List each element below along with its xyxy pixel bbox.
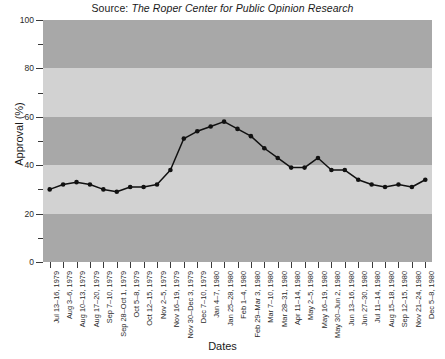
x-tick-label-13: Jan 25–28, 1980: [227, 271, 234, 326]
x-tick-9: [170, 262, 171, 268]
data-point: [155, 182, 160, 187]
x-tick-11: [197, 262, 198, 268]
data-point: [396, 182, 401, 187]
data-point: [74, 180, 79, 185]
series-line-group: [43, 20, 432, 262]
y-minor-tick-90: [38, 44, 43, 45]
x-tick-18: [291, 262, 292, 268]
x-tick-12: [211, 262, 212, 268]
series-line: [50, 122, 426, 192]
data-point: [249, 134, 254, 139]
x-tick-label-27: Nov 21–24, 1980: [415, 271, 422, 327]
data-point: [329, 168, 334, 173]
data-point: [302, 165, 307, 170]
x-tick-label-15: Feb 29–Mar 3, 1980: [254, 271, 261, 338]
data-point: [222, 119, 227, 124]
x-tick-6: [130, 262, 131, 268]
x-tick-1: [63, 262, 64, 268]
x-tick-label-14: Feb 1–4, 1980: [240, 271, 247, 319]
x-tick-19: [305, 262, 306, 268]
x-tick-label-25: Aug 15–18, 1980: [388, 271, 395, 327]
x-tick-label-21: May 30–Jun 2, 1980: [334, 271, 341, 338]
x-tick-label-5: Sep 28–Oct 1, 1979: [120, 271, 127, 337]
x-tick-13: [224, 262, 225, 268]
y-minor-tick-10: [38, 238, 43, 239]
x-tick-label-9: Nov 16–19, 1979: [173, 271, 180, 327]
x-tick-3: [90, 262, 91, 268]
x-tick-26: [398, 262, 399, 268]
chart-title: Source: The Roper Center for Public Opin…: [0, 2, 445, 14]
x-tick-23: [358, 262, 359, 268]
data-point: [369, 182, 374, 187]
y-tick-60: [36, 117, 43, 118]
y-tick-label-80: 80: [25, 63, 34, 73]
data-point: [275, 156, 280, 161]
data-point: [61, 182, 66, 187]
data-point: [410, 185, 415, 190]
data-point: [88, 182, 93, 187]
x-tick-label-18: Apr 11–14, 1980: [294, 271, 301, 325]
x-axis-title: Dates: [0, 340, 445, 352]
x-tick-label-2: Aug 10–13, 1979: [79, 271, 86, 327]
data-point: [182, 136, 187, 141]
series-markers: [47, 119, 427, 194]
y-tick-20: [36, 214, 43, 215]
x-tick-4: [103, 262, 104, 268]
x-tick-label-24: Jul 11–14, 1980: [374, 271, 381, 323]
data-point: [114, 190, 119, 195]
x-tick-7: [144, 262, 145, 268]
y-tick-label-60: 60: [25, 112, 34, 122]
x-tick-label-1: Aug 3–6, 1979: [66, 271, 73, 319]
data-point: [168, 168, 173, 173]
data-point: [423, 177, 428, 182]
y-tick-label-40: 40: [25, 160, 34, 170]
y-tick-100: [36, 20, 43, 21]
x-tick-label-19: May 2–5, 1980: [307, 271, 314, 320]
x-tick-14: [238, 262, 239, 268]
data-point: [383, 185, 388, 190]
x-tick-label-3: Aug 17–20, 1979: [93, 271, 100, 327]
data-point: [141, 185, 146, 190]
x-tick-5: [117, 262, 118, 268]
x-tick-label-17: Mar 28–31, 1980: [281, 271, 288, 327]
x-tick-24: [372, 262, 373, 268]
x-tick-label-28: Dec 5–8, 1980: [428, 271, 435, 319]
x-tick-label-4: Sep 7–10, 1979: [106, 271, 113, 323]
x-tick-16: [264, 262, 265, 268]
y-axis-title: Approval (%): [13, 79, 25, 189]
x-tick-25: [385, 262, 386, 268]
chart-title-source: The Roper Center for Public Opinion Rese…: [131, 2, 353, 14]
data-point: [208, 124, 213, 129]
x-tick-label-0: Jul 13–16, 1979: [53, 271, 60, 324]
x-tick-10: [184, 262, 185, 268]
y-tick-40: [36, 165, 43, 166]
x-tick-15: [251, 262, 252, 268]
data-point: [316, 156, 321, 161]
y-minor-tick-50: [38, 141, 43, 142]
data-point: [235, 127, 240, 132]
x-tick-label-22: Jun 13–16, 1980: [348, 271, 355, 326]
x-tick-22: [345, 262, 346, 268]
y-tick-label-20: 20: [25, 209, 34, 219]
approval-line-chart: Source: The Roper Center for Public Opin…: [0, 0, 445, 359]
x-tick-label-26: Sep 12–15, 1980: [401, 271, 408, 327]
x-tick-21: [331, 262, 332, 268]
y-tick-80: [36, 68, 43, 69]
x-tick-27: [412, 262, 413, 268]
data-point: [356, 177, 361, 182]
chart-title-prefix: Source:: [91, 2, 128, 14]
x-tick-label-7: Oct 12–15, 1979: [146, 271, 153, 326]
x-tick-28: [425, 262, 426, 268]
x-tick-label-6: Oct 5–8, 1979: [133, 271, 140, 317]
x-tick-label-12: Jan 4–7, 1980: [213, 271, 220, 318]
y-minor-tick-70: [38, 93, 43, 94]
data-point: [262, 146, 267, 151]
data-point: [128, 185, 133, 190]
x-tick-label-10: Nov 30–Dec 3, 1979: [187, 271, 194, 338]
x-tick-0: [50, 262, 51, 268]
x-tick-8: [157, 262, 158, 268]
data-point: [101, 187, 106, 192]
data-point: [47, 187, 52, 192]
x-tick-20: [318, 262, 319, 268]
y-minor-tick-30: [38, 189, 43, 190]
